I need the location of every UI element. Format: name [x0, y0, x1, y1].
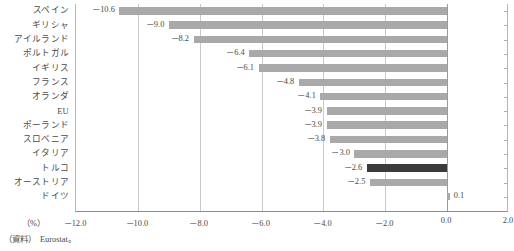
bar [354, 150, 447, 158]
category-label: オランダ [0, 92, 69, 101]
category-label: ギリシャ [0, 21, 69, 30]
bar-value-label: －2.5 [347, 175, 365, 189]
bar [367, 164, 447, 172]
category-label: イギリス [0, 64, 69, 73]
bar [194, 36, 448, 44]
bar-value-label: －6.1 [236, 61, 254, 75]
x-axis-unit-label: （%） [22, 216, 45, 228]
bar-row: －2.6 [76, 161, 507, 175]
source-note: （資料） Eurostat。 [4, 232, 76, 244]
bar [119, 7, 447, 15]
category-label: オーストリア [0, 178, 69, 187]
bar-row: －8.2 [76, 33, 507, 47]
bar-row: －4.8 [76, 76, 507, 90]
axis-tick-mark [504, 11, 508, 12]
bar-row: －4.1 [76, 90, 507, 104]
bar-row: －3.9 [76, 118, 507, 132]
x-tick-label: 2.0 [503, 216, 513, 225]
bar-value-label: 0.1 [454, 189, 464, 203]
bar-row: －10.6 [76, 4, 507, 18]
bar [249, 50, 447, 58]
bar [327, 121, 448, 129]
x-tick-label: －2.0 [375, 216, 393, 228]
plot-area: －10.6－9.0－8.2－6.4－6.1－4.8－4.1－3.9－3.9－3.… [75, 4, 508, 212]
bar [169, 21, 447, 29]
x-tick-label: －6.0 [251, 216, 269, 228]
bar-row: －6.1 [76, 61, 507, 75]
bar-row: －3.8 [76, 133, 507, 147]
x-tick-label: －4.0 [313, 216, 331, 228]
axis-tick-mark [504, 97, 508, 98]
axis-tick-mark [504, 54, 508, 55]
axis-tick-mark [504, 68, 508, 69]
category-label: トルコ [0, 164, 69, 173]
chart-container: スペインギリシャアイルランドポルトガルイギリスフランスオランダEUポーランドスロ… [0, 0, 514, 251]
bar-value-label: －3.0 [331, 146, 349, 160]
bar-value-label: －9.0 [146, 18, 164, 32]
bar-row: －2.5 [76, 176, 507, 190]
axis-tick-mark [504, 197, 508, 198]
bar-value-label: －3.8 [307, 132, 325, 146]
category-label: アイルランド [0, 35, 69, 44]
bar [327, 107, 448, 115]
axis-tick-mark [504, 183, 508, 184]
x-tick-label: －10.0 [126, 216, 149, 228]
axis-tick-mark [504, 25, 508, 26]
bar [259, 64, 448, 72]
bar-row: 0.1 [76, 190, 507, 204]
x-tick-label: －12.0 [64, 216, 87, 228]
category-label: EU [0, 107, 69, 116]
axis-tick-mark [504, 83, 508, 84]
axis-tick-mark [504, 154, 508, 155]
bar-value-label: －8.2 [171, 32, 189, 46]
axis-tick-mark [504, 140, 508, 141]
bar-value-label: －3.9 [304, 118, 322, 132]
bar-value-label: －10.6 [92, 3, 115, 17]
axis-tick-mark [504, 40, 508, 41]
bar [330, 136, 448, 144]
bar-value-label: －3.9 [304, 104, 322, 118]
bar-value-label: －6.4 [226, 46, 244, 60]
bar-value-label: －4.8 [276, 75, 294, 89]
category-label: スペイン [0, 6, 69, 15]
bar-value-label: －2.6 [344, 161, 362, 175]
category-label: フランス [0, 78, 69, 87]
category-label: ポルトガル [0, 49, 69, 58]
x-tick-label: 0.0 [441, 216, 451, 225]
category-label: スロベニア [0, 135, 69, 144]
category-label: イタリア [0, 149, 69, 158]
bar [370, 179, 447, 187]
bar [447, 193, 450, 201]
axis-tick-mark [504, 125, 508, 126]
bar [320, 93, 447, 101]
bar [299, 79, 448, 87]
bar-value-label: －4.1 [297, 89, 315, 103]
axis-tick-mark [504, 168, 508, 169]
bar-row: －6.4 [76, 47, 507, 61]
category-label: ポーランド [0, 121, 69, 130]
bar-row: －9.0 [76, 18, 507, 32]
x-tick-label: －8.0 [189, 216, 207, 228]
bar-row: －3.0 [76, 147, 507, 161]
category-label: ドイツ [0, 192, 69, 201]
bar-row: －3.9 [76, 104, 507, 118]
axis-tick-mark [504, 111, 508, 112]
